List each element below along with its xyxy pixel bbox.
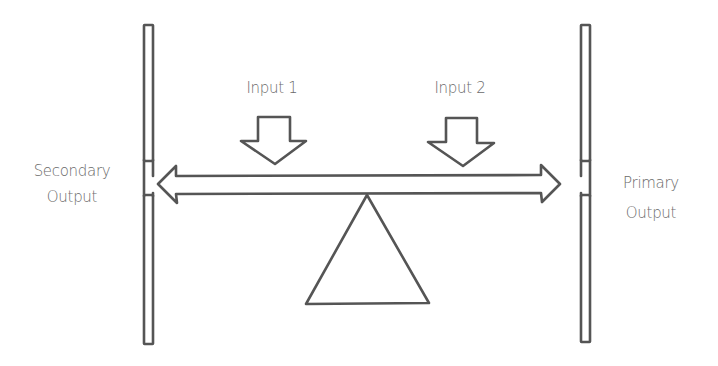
- fulcrum-triangle: [306, 195, 429, 304]
- secondary-output-label: Secondary Output: [22, 158, 122, 210]
- input-1-arrow: [241, 117, 306, 164]
- input-2-label: Input 2: [420, 78, 500, 98]
- left-pillar-lower: [144, 195, 153, 344]
- input-1-text: Input 1: [232, 78, 312, 98]
- secondary-output-line1: Secondary: [22, 158, 122, 184]
- primary-output-line1: Primary: [606, 168, 696, 198]
- primary-output-line2: Output: [606, 198, 696, 228]
- secondary-output-line2: Output: [22, 184, 122, 210]
- input-2-text: Input 2: [420, 78, 500, 98]
- right-pillar-lower: [581, 195, 590, 342]
- right-pillar: [581, 25, 590, 161]
- input-1-label: Input 1: [232, 78, 312, 98]
- lever-double-arrow: [158, 165, 560, 203]
- primary-output-label: Primary Output: [606, 168, 696, 228]
- input-2-arrow: [428, 118, 494, 166]
- left-pillar: [144, 25, 153, 161]
